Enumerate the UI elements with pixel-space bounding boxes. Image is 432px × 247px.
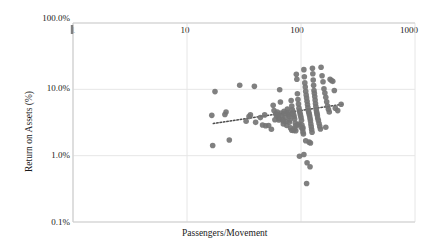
data-point [323,124,329,130]
data-point [288,98,294,104]
data-point [277,87,283,93]
data-point [210,143,216,149]
data-point [304,181,310,187]
data-point [311,83,317,89]
data-point [222,112,228,118]
data-point [326,109,332,115]
data-point [212,89,218,95]
data-point [300,125,306,131]
axis-lines [72,23,415,222]
data-point [301,67,307,73]
data-point [338,101,344,107]
data-point [272,117,278,123]
data-point [294,71,300,77]
data-point [330,79,336,85]
data-point [209,113,215,119]
data-point [281,118,287,124]
data-point [310,77,316,83]
data-point [318,64,324,70]
data-point [269,126,275,132]
data-point [335,108,341,114]
data-point [246,114,252,120]
scatter-chart: 100.0% 10.0% 1.0% 0.1% 1 10 100 1000 Ret… [0,0,432,247]
data-point [278,99,284,105]
data-point [302,74,308,80]
data-point [318,126,324,132]
data-point [287,120,293,126]
data-point [253,120,259,126]
data-point [270,102,276,108]
data-point [303,138,309,144]
data-point [295,91,301,97]
data-point [301,152,307,158]
data-points [209,64,344,186]
data-point [309,130,315,136]
data-point [307,164,313,170]
data-point [292,126,298,132]
data-point [262,112,268,118]
data-point [252,84,258,90]
data-point [310,65,316,71]
data-point [243,118,249,124]
data-point [237,82,243,88]
data-point [319,73,325,79]
data-point [320,79,326,85]
data-point [301,131,307,137]
plot-area [0,0,432,247]
data-point [310,71,316,77]
data-point [332,88,338,94]
data-point [227,137,233,143]
data-point [294,76,300,82]
